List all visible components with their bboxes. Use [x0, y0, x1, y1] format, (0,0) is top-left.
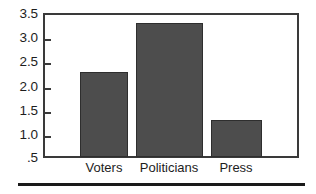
- x-tick-label-press: Press: [219, 161, 252, 174]
- bottom-divider-rule: [18, 183, 305, 186]
- x-tick-label-voters: Voters: [86, 161, 123, 174]
- bar-chart-figure: 3.5 3.0 2.5 2.0 1.5 1.0 .5 Voters Politi…: [0, 0, 316, 194]
- bar-press: [211, 120, 262, 157]
- bar-politicians: [136, 23, 203, 157]
- bar-voters: [80, 72, 128, 157]
- x-tick-label-politicians: Politicians: [140, 161, 199, 174]
